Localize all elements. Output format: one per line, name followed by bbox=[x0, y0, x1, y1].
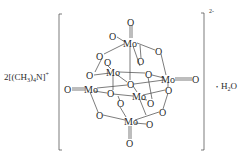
atom-mo-right: Mo bbox=[161, 74, 175, 85]
atom-o-center: O bbox=[127, 79, 134, 90]
atoms: O Mo O O O O O O Mo O Mo O O O Mo O O Mo… bbox=[64, 17, 199, 149]
atom-o: O bbox=[96, 110, 103, 121]
left-bracket bbox=[59, 14, 62, 150]
atom-o-bottom-terminal: O bbox=[126, 138, 133, 149]
atom-o: O bbox=[155, 46, 162, 57]
atom-o: O bbox=[165, 85, 172, 96]
atom-o-top-terminal: O bbox=[127, 17, 134, 28]
atom-mo-bottom: Mo bbox=[124, 116, 138, 127]
atom-o: O bbox=[147, 98, 154, 109]
atom-mo-left: Mo bbox=[84, 84, 98, 95]
atom-o: O bbox=[145, 69, 152, 80]
atom-o-right-terminal: O bbox=[192, 74, 199, 85]
atom-o: O bbox=[86, 70, 93, 81]
right-bracket bbox=[201, 13, 204, 150]
molecule-diagram: O Mo O O O O O O Mo O Mo O O O Mo O O Mo… bbox=[0, 0, 244, 156]
atom-mo-middle: Mo bbox=[132, 91, 146, 102]
atom-o: O bbox=[146, 119, 153, 130]
atom-o-left-terminal: O bbox=[64, 84, 71, 95]
atom-o: O bbox=[117, 98, 124, 109]
atom-o: O bbox=[109, 31, 116, 42]
atom-o: O bbox=[137, 56, 144, 67]
atom-o: O bbox=[107, 88, 114, 99]
atom-mo-upper-left: Mo bbox=[106, 67, 120, 78]
atom-mo-top: Mo bbox=[123, 38, 137, 49]
atom-o: O bbox=[159, 107, 166, 118]
atom-o: O bbox=[96, 51, 103, 62]
